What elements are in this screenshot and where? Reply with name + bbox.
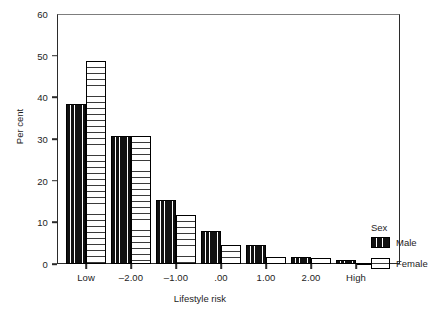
x-tick-mark-low xyxy=(85,264,87,269)
legend-item-male: Male xyxy=(371,236,444,248)
bar-female-zero xyxy=(221,245,241,264)
legend-label-male: Male xyxy=(396,237,417,248)
x-tick-mark-one xyxy=(265,264,267,269)
x-tick-label-high: High xyxy=(346,272,366,283)
legend-label-female: Female xyxy=(396,258,428,269)
x-tick-label-neg2: –2.00 xyxy=(119,272,143,283)
bar-female-neg2 xyxy=(131,136,151,264)
bar-female-neg1 xyxy=(176,215,196,264)
y-tick-label-40: 40 xyxy=(37,92,48,103)
bar-male-zero xyxy=(201,231,221,264)
bar-male-neg2 xyxy=(111,136,131,264)
legend-item-female: Female xyxy=(371,257,444,269)
bar-male-low xyxy=(66,104,86,264)
x-tick-label-zero: .00 xyxy=(214,272,228,283)
plot-area xyxy=(57,14,400,264)
bar-male-neg1 xyxy=(156,200,176,264)
y-tick-label-60: 60 xyxy=(37,9,48,20)
y-tick-label-20: 20 xyxy=(37,175,48,186)
legend-swatch-male-icon xyxy=(371,237,390,248)
x-tick-mark-neg1 xyxy=(175,264,177,269)
bar-female-low xyxy=(86,61,106,264)
chart-page: 0 10 20 30 40 50 60 Per cent Low –2.00 –… xyxy=(0,0,444,319)
x-tick-mark-neg2 xyxy=(130,264,132,269)
x-axis-title: Lifestyle risk xyxy=(0,293,400,304)
x-tick-mark-zero xyxy=(220,264,222,269)
y-tick-label-0: 0 xyxy=(43,259,48,270)
bar-male-one xyxy=(246,245,266,264)
y-axis-title: Per cent xyxy=(14,87,25,167)
x-tick-label-low: Low xyxy=(77,272,95,283)
x-tick-mark-high xyxy=(355,264,357,269)
x-tick-mark-two xyxy=(310,264,312,269)
bar-female-one xyxy=(266,257,286,265)
bar-female-two xyxy=(311,258,331,264)
legend-title: Sex xyxy=(371,222,444,233)
x-tick-label-two: 2.00 xyxy=(302,272,321,283)
y-tick-label-10: 10 xyxy=(37,217,48,228)
y-tick-label-50: 50 xyxy=(37,50,48,61)
y-tick-label-30: 30 xyxy=(37,134,48,145)
legend: Sex Male Female xyxy=(371,222,444,278)
legend-swatch-female-icon xyxy=(371,258,390,269)
bar-male-high xyxy=(336,260,356,264)
bar-male-two xyxy=(291,257,311,264)
x-tick-label-one: 1.00 xyxy=(257,272,276,283)
x-tick-label-neg1: –1.00 xyxy=(164,272,188,283)
